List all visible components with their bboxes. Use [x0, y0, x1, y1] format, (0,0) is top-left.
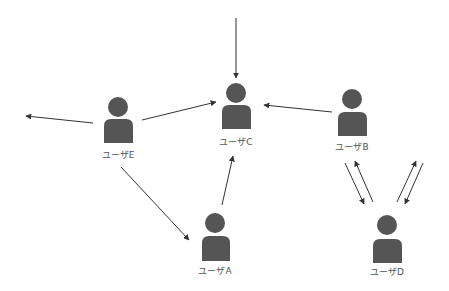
user-label: ユーザA — [198, 266, 232, 276]
person-body — [104, 119, 133, 143]
person-head — [205, 213, 225, 233]
person-head — [108, 97, 128, 117]
person-head — [377, 215, 397, 235]
person-body — [202, 236, 230, 261]
person-body — [338, 112, 367, 136]
person-head — [226, 83, 246, 103]
user-label: ユーザB — [335, 142, 368, 152]
person-head — [342, 89, 362, 109]
user-label: ユーザC — [219, 137, 252, 147]
user-label: ユーザE — [102, 150, 135, 160]
user-relationship-diagram: ユーザAユーザBユーザCユーザDユーザE — [0, 0, 449, 291]
person-body — [222, 105, 251, 129]
user-label: ユーザD — [370, 267, 404, 277]
person-body — [373, 239, 402, 263]
